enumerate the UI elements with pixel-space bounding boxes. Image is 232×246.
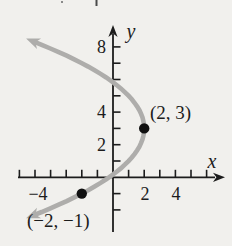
point-label-2-3: (2, 3) <box>150 102 191 124</box>
x-tick-label-neg4: −4 <box>28 184 47 204</box>
point-dot-(2,3) <box>139 123 149 133</box>
parabola-graph: 8 4 2 −4 2 4 x y (2, 3) (−2, −1) <box>0 0 232 246</box>
axes-group <box>18 25 225 232</box>
y-tick-label-4: 4 <box>97 102 106 122</box>
x-axis-letter: x <box>207 150 217 172</box>
parabola-curve <box>33 41 145 215</box>
scan-artifact-dash <box>96 0 98 6</box>
point-label-neg2-neg1: (−2, −1) <box>27 210 90 232</box>
x-tick-label-2: 2 <box>141 184 150 204</box>
scan-artifact-speck <box>61 1 63 3</box>
figure-container: 8 4 2 −4 2 4 x y (2, 3) (−2, −1) <box>0 0 232 246</box>
point-dot-(-2,-1) <box>77 188 87 198</box>
y-tick-label-2: 2 <box>97 135 106 155</box>
y-axis-letter: y <box>125 20 136 43</box>
x-tick-label-4: 4 <box>172 184 181 204</box>
y-tick-label-8: 8 <box>97 37 106 57</box>
